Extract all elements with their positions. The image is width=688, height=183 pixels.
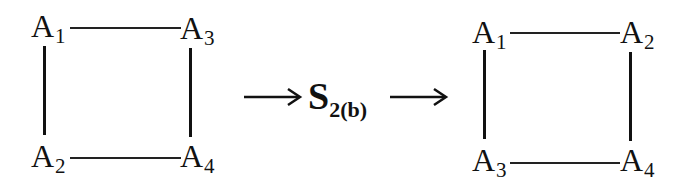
node-subscript: 1 (496, 30, 507, 54)
left-edge-bottom (70, 157, 181, 159)
node-letter: A (180, 138, 203, 174)
right-edge-top (510, 32, 620, 34)
node-letter: A (620, 14, 643, 50)
operation-label: S2(b) (308, 77, 367, 129)
node-letter: A (31, 8, 54, 44)
right-edge-left (483, 50, 486, 139)
node-letter: A (472, 142, 495, 178)
operation-letter: S (308, 75, 329, 117)
right-node-bottom-left: A3 (472, 144, 507, 183)
operation-subscript: 2(b) (329, 97, 367, 122)
right-edge-bottom (510, 162, 620, 164)
node-subscript: 2 (55, 154, 66, 178)
right-edge-right (629, 52, 632, 141)
left-node-bottom-left: A2 (31, 140, 66, 182)
arrow-right-icon (244, 88, 302, 108)
right-node-bottom-right: A4 (620, 144, 655, 183)
node-letter: A (472, 14, 495, 50)
node-subscript: 3 (496, 158, 507, 182)
node-subscript: 4 (644, 158, 655, 182)
left-edge-top (70, 27, 181, 29)
left-edge-right (189, 48, 192, 137)
left-node-top-left: A1 (31, 10, 66, 52)
node-subscript: 2 (644, 30, 655, 54)
left-node-top-right: A3 (180, 12, 215, 54)
right-node-top-left: A1 (472, 16, 507, 58)
node-subscript: 1 (55, 24, 66, 48)
arrow-right-icon (390, 88, 448, 108)
node-letter: A (31, 138, 54, 174)
node-letter: A (620, 142, 643, 178)
right-node-top-right: A2 (620, 16, 655, 58)
left-edge-left (43, 46, 46, 135)
node-letter: A (180, 10, 203, 46)
left-node-bottom-right: A4 (180, 140, 215, 182)
node-subscript: 4 (204, 154, 215, 178)
node-subscript: 3 (204, 26, 215, 50)
